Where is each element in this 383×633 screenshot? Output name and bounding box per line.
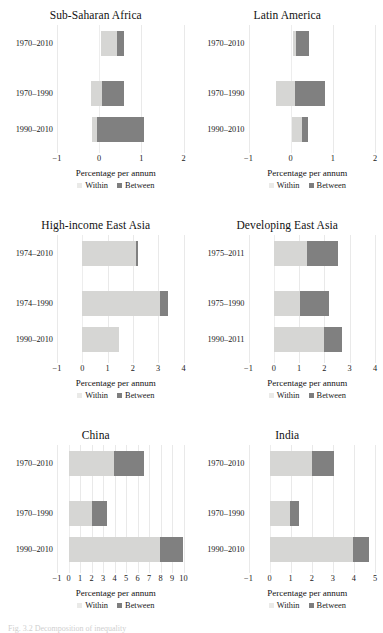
x-axis: −101234 — [192, 364, 383, 377]
panel-title: Latin America — [192, 0, 383, 23]
plot-area: 1975–20111975–19901990–2011 — [192, 235, 383, 363]
bar-row — [249, 241, 376, 266]
x-tick-label: 4 — [112, 574, 116, 583]
x-tick-label: 2 — [322, 364, 326, 373]
legend-swatch-between-icon — [309, 393, 314, 398]
legend: WithinBetween — [192, 181, 383, 190]
legend-swatch-within-icon — [269, 183, 274, 188]
x-tick-label: 0 — [97, 154, 101, 163]
plot-area: 1970–20101970–19901990–2010 — [0, 25, 192, 153]
x-tick-label: 4 — [373, 364, 377, 373]
plot-inner — [57, 235, 184, 363]
x-tick-label: 0 — [289, 154, 293, 163]
bar-segment-between — [102, 81, 124, 106]
bar-segment-within — [101, 31, 117, 56]
panel-row-2: High-income East Asia1974–20101974–19901… — [0, 210, 383, 420]
panel-row-3: China1970–20101970–19901990–2010−1012345… — [0, 420, 383, 630]
x-tick-label: 10 — [179, 574, 187, 583]
bar-segment-between — [300, 291, 329, 316]
x-tick-label: 2 — [89, 574, 93, 583]
legend-item-within: Within — [269, 601, 300, 610]
bar-row — [249, 451, 376, 476]
category-label: 1975–1990 — [192, 299, 245, 308]
category-label: 1990–2010 — [0, 125, 53, 134]
legend-item-between: Between — [309, 601, 346, 610]
legend-item-between: Between — [117, 391, 154, 400]
legend-swatch-between-icon — [309, 183, 314, 188]
gridline — [375, 25, 376, 153]
panel-row-1: Sub-Saharan Africa1970–20101970–19901990… — [0, 0, 383, 210]
legend-item-between: Between — [309, 391, 346, 400]
chart-panel-2: Latin America1970–20101970–19901990–2010… — [192, 0, 383, 210]
category-label: 1990–2010 — [192, 545, 245, 554]
bar-segment-within — [276, 81, 295, 106]
x-tick-label: 1 — [289, 574, 293, 583]
bar-segment-between — [92, 501, 107, 526]
plot-inner — [249, 235, 376, 363]
category-label: 1970–2010 — [192, 39, 245, 48]
x-axis-title: Percentage per annum — [0, 588, 192, 598]
x-tick-label: 3 — [156, 364, 160, 373]
category-label: 1970–2010 — [0, 39, 53, 48]
legend-label-between: Between — [317, 601, 346, 610]
x-tick-label: 0 — [66, 574, 70, 583]
x-tick-label: 8 — [158, 574, 162, 583]
legend: WithinBetween — [0, 601, 192, 610]
bar-segment-between — [307, 241, 339, 266]
x-tick-label: −1 — [53, 574, 62, 583]
bar-segment-within — [82, 241, 136, 266]
x-axis-title: Percentage per annum — [0, 168, 192, 178]
category-label: 1975–2011 — [192, 249, 245, 258]
legend-item-within: Within — [77, 601, 108, 610]
legend-label-between: Between — [125, 601, 154, 610]
figure-panel-grid: Sub-Saharan Africa1970–20101970–19901990… — [0, 0, 383, 633]
panel-title: China — [0, 420, 192, 443]
panel-title: Developing East Asia — [192, 210, 383, 233]
legend-item-within: Within — [77, 181, 108, 190]
legend-swatch-between-icon — [117, 183, 122, 188]
bar-row — [249, 31, 376, 56]
bar-row — [249, 327, 376, 352]
x-tick-label: 0 — [272, 364, 276, 373]
legend-swatch-between-icon — [117, 603, 122, 608]
plot-inner — [249, 445, 376, 573]
gridline — [375, 235, 376, 363]
legend-label-within: Within — [85, 601, 108, 610]
bar-segment-within — [270, 537, 353, 562]
bar-segment-within — [69, 537, 160, 562]
plot-area: 1970–20101970–19901990–2010 — [0, 445, 192, 573]
bar-row — [57, 537, 184, 562]
legend-swatch-between-icon — [117, 393, 122, 398]
category-label: 1970–1990 — [192, 509, 245, 518]
legend: WithinBetween — [192, 391, 383, 400]
bar-row — [57, 81, 184, 106]
x-tick-label: 3 — [331, 574, 335, 583]
plot-area: 1970–20101970–19901990–2010 — [192, 445, 383, 573]
chart-panel-4: Developing East Asia1975–20111975–199019… — [192, 210, 383, 420]
panel-title: High-income East Asia — [0, 210, 192, 233]
bar-row — [57, 117, 184, 142]
category-label: 1990–2010 — [0, 335, 53, 344]
x-tick-label: −1 — [53, 364, 62, 373]
legend-item-between: Between — [117, 601, 154, 610]
category-label: 1990–2010 — [192, 125, 245, 134]
x-tick-label: 1 — [139, 154, 143, 163]
x-tick-label: −1 — [244, 364, 253, 373]
x-tick-label: 0 — [80, 364, 84, 373]
panel-title: India — [192, 420, 383, 443]
legend-item-within: Within — [77, 391, 108, 400]
legend-label-within: Within — [277, 181, 300, 190]
x-tick-label: 2 — [181, 154, 185, 163]
x-axis-title: Percentage per annum — [192, 588, 383, 598]
legend-swatch-within-icon — [77, 603, 82, 608]
x-tick-label: 7 — [147, 574, 151, 583]
x-axis-title: Percentage per annum — [192, 168, 383, 178]
legend-label-between: Between — [125, 181, 154, 190]
gridline — [184, 445, 185, 573]
legend-swatch-within-icon — [269, 603, 274, 608]
plot-inner — [249, 25, 376, 153]
x-tick-label: 3 — [101, 574, 105, 583]
legend-label-within: Within — [277, 391, 300, 400]
legend-label-between: Between — [317, 391, 346, 400]
bar-segment-within — [274, 327, 325, 352]
